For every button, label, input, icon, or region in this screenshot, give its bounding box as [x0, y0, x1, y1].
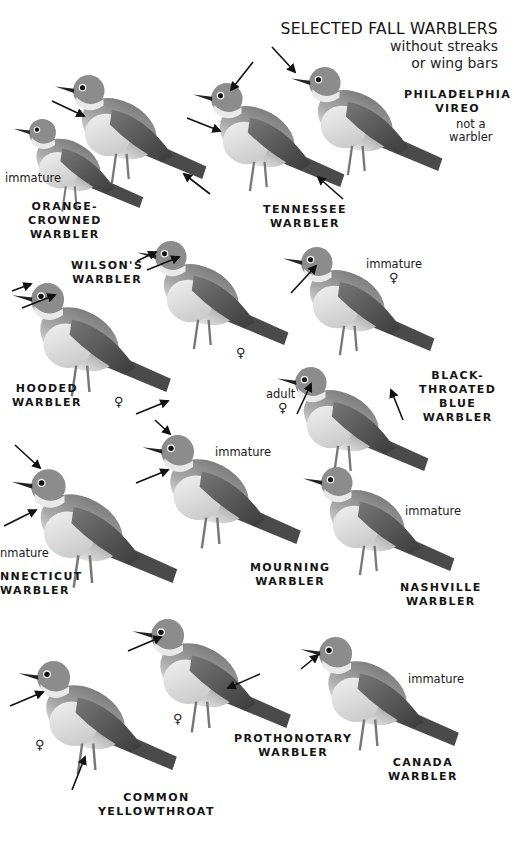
note-line: warbler [449, 131, 492, 144]
bird-bt-blue-adult-female [277, 367, 428, 475]
note-immature-nashville: immature [405, 505, 461, 518]
female-symbol-common-yellowthroat: ♀ [35, 738, 45, 751]
label-line: MOURNING [250, 561, 330, 575]
note-immature-mourning: immature [215, 446, 271, 459]
bird-wilsons-female [137, 241, 288, 349]
label-line: PHILADELPHIA [404, 88, 511, 102]
label-line: WARBLER [388, 770, 458, 784]
label-line: WARBLER [71, 273, 143, 287]
field-guide-page: SELECTED FALL WARBLERS without streaks o… [0, 0, 514, 862]
female-symbol-hooded: ♀ [114, 395, 124, 408]
label-line: THROATED [419, 383, 496, 397]
female-symbol-bt-blue-immature: ♀ [389, 271, 399, 284]
label-line: VIREO [404, 102, 511, 116]
species-label-orange-crowned-warbler: ORANGE- CROWNED WARBLER [28, 200, 102, 242]
label-line: BLACK- [419, 369, 496, 383]
female-symbol-wilsons: ♀ [236, 346, 246, 359]
note-immature-orange-crowned: immature [5, 172, 61, 185]
label-line: WARBLER [400, 595, 482, 609]
label-line: NASHVILLE [400, 581, 482, 595]
label-line: WARBLER [12, 396, 82, 410]
species-label-common-yellowthroat: COMMON YELLOWTHROAT [98, 791, 215, 819]
label-line: WILSON'S [71, 259, 143, 273]
note-immature-canada: immature [408, 673, 464, 686]
note-immature-connecticut: nmature [0, 547, 49, 560]
label-line: WARBLER [419, 411, 496, 425]
label-line: ORANGE- [28, 200, 102, 214]
label-line: NNECTICUT [0, 570, 83, 584]
label-line: CANADA [388, 756, 458, 770]
label-line: PROTHONOTARY [234, 732, 352, 746]
species-label-prothonotary-warbler: PROTHONOTARY WARBLER [234, 732, 352, 760]
page-subtitle-line2: or wing bars [281, 55, 498, 72]
label-line: TENNESSEE [263, 203, 347, 217]
label-line: WARBLER [263, 217, 347, 231]
bird-philadelphia-vireo [291, 67, 442, 175]
label-line: WARBLER [250, 575, 330, 589]
bird-hooded-female [12, 283, 170, 396]
species-label-hooded-warbler: HOODED WARBLER [12, 382, 82, 410]
label-line: HOODED [12, 382, 82, 396]
page-subtitle-line1: without streaks [281, 38, 498, 55]
species-label-wilsons-warbler: WILSON'S WARBLER [71, 259, 143, 287]
label-line: WARBLER [0, 584, 83, 598]
bird-common-yellowthroat-female [18, 661, 176, 774]
label-line: WARBLER [28, 228, 102, 242]
label-line: BLUE [419, 397, 496, 411]
note-not-a-warbler: not a warbler [449, 118, 492, 144]
label-line: COMMON [98, 791, 215, 805]
species-label-philadelphia-vireo: PHILADELPHIA VIREO [404, 88, 511, 116]
bird-prothonotary-female [132, 619, 290, 732]
bird-nashville [303, 467, 454, 575]
label-line: YELLOWTHROAT [98, 805, 215, 819]
species-label-mourning-warbler: MOURNING WARBLER [250, 561, 330, 589]
species-label-nashville-warbler: NASHVILLE WARBLER [400, 581, 482, 609]
label-line: CROWNED [28, 214, 102, 228]
page-title: SELECTED FALL WARBLERS [281, 20, 498, 38]
label-line: WARBLER [234, 746, 352, 760]
species-label-canada-warbler: CANADA WARBLER [388, 756, 458, 784]
female-symbol-bt-blue-adult: ♀ [278, 401, 288, 414]
species-label-connecticut-warbler: NNECTICUT WARBLER [0, 570, 83, 598]
species-label-tennessee-warbler: TENNESSEE WARBLER [263, 203, 347, 231]
species-label-black-throated-blue-warbler: BLACK- THROATED BLUE WARBLER [419, 369, 496, 425]
page-header: SELECTED FALL WARBLERS without streaks o… [281, 20, 498, 72]
female-symbol-prothonotary: ♀ [173, 712, 183, 725]
